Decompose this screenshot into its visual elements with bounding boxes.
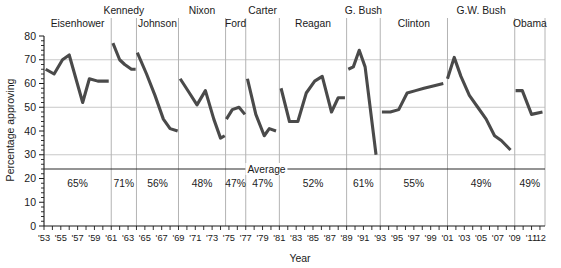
x-tick-label: '01 <box>441 233 453 243</box>
president-label-g-bush: G. Bush <box>345 5 382 16</box>
x-tick-label: '71 <box>189 233 201 243</box>
series-line-nixon <box>180 79 225 138</box>
president-average-ford: 47% <box>225 178 246 189</box>
president-label-johnson: Johnson <box>138 18 177 29</box>
x-tick-label: '53 <box>38 233 50 243</box>
president-average-johnson: 56% <box>147 178 168 189</box>
x-tick-label: '77 <box>240 233 252 243</box>
y-tick-label: 0 <box>30 220 36 232</box>
x-tick-label: '75 <box>223 233 235 243</box>
y-axis-tick-labels: 01020304050607080 <box>24 30 36 232</box>
president-label-reagan: Reagan <box>295 18 331 29</box>
x-tick-label: '79 <box>256 233 268 243</box>
y-tick-label: 60 <box>24 77 36 89</box>
president-average-g-bush: 61% <box>353 178 374 189</box>
series-line-ford <box>226 107 244 119</box>
president-label-carter: Carter <box>248 5 277 16</box>
x-tick-label: '03 <box>458 233 470 243</box>
x-tick-label: '97 <box>408 233 420 243</box>
y-tick-label: 30 <box>24 148 36 160</box>
president-average-eisenhower: 65% <box>67 178 88 189</box>
president-label-ford: Ford <box>225 18 246 29</box>
horizontal-gridlines <box>44 60 545 155</box>
series-line-eisenhower <box>46 55 109 103</box>
series-line-g-bush <box>348 50 376 155</box>
x-tick-label: '63 <box>122 233 134 243</box>
axes <box>44 36 545 226</box>
series-line-obama <box>516 91 543 115</box>
x-tick-label: '69 <box>172 233 184 243</box>
president-label-eisenhower: Eisenhower <box>51 18 105 29</box>
x-axis-ticks <box>44 226 540 230</box>
president-label-nixon: Nixon <box>189 5 216 16</box>
president-average-obama: 49% <box>520 178 541 189</box>
x-tick-label: '61 <box>105 233 117 243</box>
vertical-term-dividers <box>111 18 545 226</box>
x-axis-tick-labels: '53'55'57'59'61'63'65'67'69'71'73'75'77'… <box>38 233 546 243</box>
x-axis-title: Year <box>289 252 311 264</box>
series-line-g-w-bush <box>447 57 510 150</box>
chart-container: 01020304050607080 '53'55'57'59'61'63'65'… <box>0 0 561 268</box>
x-tick-label: '05 <box>475 233 487 243</box>
x-tick-label: '81 <box>273 233 285 243</box>
president-label-kennedy: Kennedy <box>104 5 146 16</box>
y-tick-label: 20 <box>24 172 36 184</box>
series-line-kennedy <box>113 43 136 69</box>
y-tick-label: 80 <box>24 30 36 42</box>
president-label-g-w-bush: G.W. Bush <box>457 5 506 16</box>
x-tick-label: '65 <box>139 233 151 243</box>
president-average-kennedy: 71% <box>114 178 135 189</box>
series-line-johnson <box>137 53 177 131</box>
president-label-obama: Obama <box>513 18 547 29</box>
x-tick-label: '93 <box>374 233 386 243</box>
y-tick-label: 40 <box>24 125 36 137</box>
x-tick-label: '87 <box>324 233 336 243</box>
series-line-reagan <box>281 76 345 121</box>
president-average-nixon: 48% <box>192 178 213 189</box>
x-tick-label: '95 <box>391 233 403 243</box>
x-tick-label: '89 <box>341 233 353 243</box>
president-average-clinton: 55% <box>404 178 425 189</box>
president-average-percent-labels: 65%71%56%48%47%47%52%61%55%49%49% <box>67 178 540 189</box>
x-tick-label: '55 <box>55 233 67 243</box>
average-label: Average <box>247 164 285 175</box>
x-tick-label: '59 <box>88 233 100 243</box>
x-tick-label: '91 <box>357 233 369 243</box>
x-tick-label: '73 <box>206 233 218 243</box>
x-tick-label: '85 <box>307 233 319 243</box>
x-tick-label: '57 <box>72 233 84 243</box>
average-line-group: Average <box>44 163 545 175</box>
x-tick-label: '99 <box>425 233 437 243</box>
approval-rating-line-chart: 01020304050607080 '53'55'57'59'61'63'65'… <box>0 0 561 268</box>
president-average-carter: 47% <box>252 178 273 189</box>
x-tick-label: '07 <box>492 233 504 243</box>
president-average-reagan: 52% <box>303 178 324 189</box>
x-tick-label: '09 <box>509 233 521 243</box>
president-label-clinton: Clinton <box>398 18 430 29</box>
y-tick-label: 70 <box>24 53 36 65</box>
x-tick-label: '12 <box>534 233 546 243</box>
y-tick-label: 10 <box>24 196 36 208</box>
y-tick-label: 50 <box>24 101 36 113</box>
president-name-labels: EisenhowerKennedyJohnsonNixonFordCarterR… <box>51 5 547 29</box>
x-tick-label: '83 <box>290 233 302 243</box>
president-average-g-w-bush: 49% <box>471 178 492 189</box>
y-axis-ticks <box>39 36 44 226</box>
x-tick-label: '67 <box>156 233 168 243</box>
y-axis-title: Percentage approving <box>4 78 16 181</box>
